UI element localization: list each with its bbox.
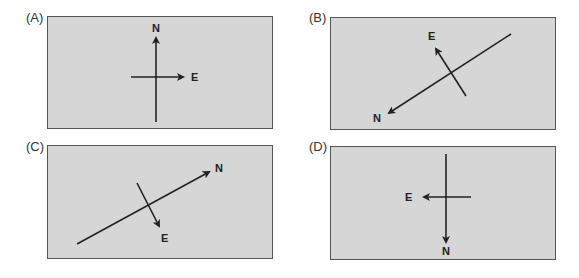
north-label-b: N [373,112,381,124]
east-label-a: E [191,71,198,83]
compass-a: N E [131,22,198,122]
compass-c: N E [77,162,223,244]
east-arrow-c [137,183,159,226]
east-label-c: E [161,232,168,244]
compass-b: N E [373,30,511,124]
compass-d: N E [405,154,471,257]
north-label-a: N [152,22,160,34]
north-label-d: N [442,245,450,257]
north-arrow-b [389,34,511,113]
east-label-d: E [405,191,412,203]
north-label-c: N [215,162,223,174]
east-arrow-b [436,49,466,96]
east-label-b: E [428,30,435,42]
compass-diagrams: N E N E N E N E [0,0,579,278]
north-arrow-c [77,172,209,244]
